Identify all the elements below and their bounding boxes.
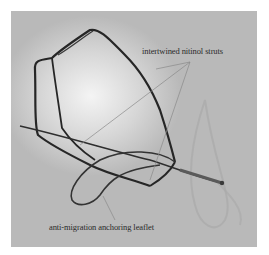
annotation-struts-label: intertwined nitinol struts bbox=[142, 46, 223, 56]
annotation-leaflet-label: anti-migration anchoring leaflet bbox=[49, 222, 154, 232]
